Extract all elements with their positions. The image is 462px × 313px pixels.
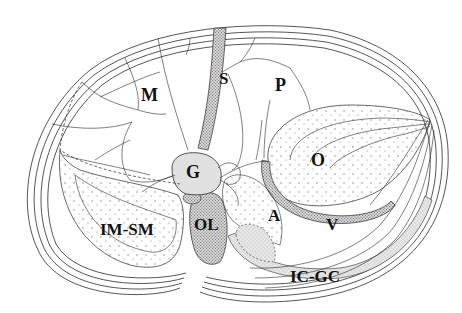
- diagram-canvas: M S P G O IM-SM OL A V IC-GC: [0, 0, 462, 313]
- label-ic-gc: IC-GC: [290, 268, 340, 285]
- label-o: O: [311, 151, 325, 169]
- region-im-sm: [59, 150, 183, 267]
- section-drawing: [0, 0, 462, 313]
- label-g: G: [186, 163, 200, 181]
- label-v: V: [326, 216, 338, 233]
- label-m: M: [141, 86, 158, 104]
- label-im-sm: IM-SM: [100, 221, 154, 238]
- label-p: P: [275, 76, 286, 94]
- label-ol: OL: [194, 216, 219, 233]
- label-a: A: [268, 207, 280, 224]
- region-s: [198, 28, 226, 150]
- label-s: S: [219, 70, 228, 87]
